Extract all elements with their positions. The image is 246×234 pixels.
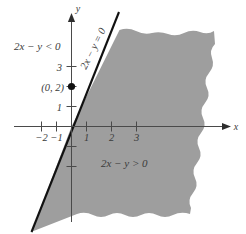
lower-region-label: 2x − y > 0	[101, 157, 148, 169]
upper-region-label: 2x − y < 0	[14, 40, 61, 52]
y-axis-arrow-icon	[68, 13, 75, 22]
x-axis-label: x	[233, 121, 239, 132]
y-tick-label-1: 1	[57, 102, 62, 113]
x-tick-label-1: 1	[84, 132, 89, 143]
y-tick-label-3: 3	[56, 62, 62, 73]
x-tick-label--1: −1	[50, 132, 62, 143]
x-tick-label-3: 3	[133, 132, 139, 143]
shaded-region-group	[31, 29, 215, 233]
x-tick-label--2: −2	[35, 132, 48, 143]
x-tick-label-2: 2	[109, 132, 115, 143]
graph-canvas: −2 −1 1 2 3 3 1 (0, 2) x y 2x − y < 0 2x…	[0, 0, 246, 234]
shaded-region-2x-minus-y-positive	[31, 29, 215, 233]
x-axis-arrow-icon	[222, 123, 231, 130]
marked-point-0-2	[68, 83, 75, 90]
y-axis-label: y	[75, 3, 81, 14]
point-label-0-2: (0, 2)	[41, 82, 64, 94]
inequality-graph-figure: −2 −1 1 2 3 3 1 (0, 2) x y 2x − y < 0 2x…	[0, 0, 246, 234]
